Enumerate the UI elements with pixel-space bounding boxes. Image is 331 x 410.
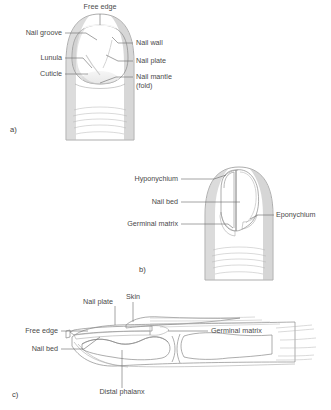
label-nail-mantle-fold: (fold)	[136, 81, 152, 90]
label-distal-phalanx: Distal phalanx	[99, 387, 145, 396]
label-skin: Skin	[126, 292, 140, 301]
label-nail-mantle: Nail mantle	[136, 72, 172, 81]
label-free-edge: Free edge	[25, 326, 58, 335]
label-cuticle: Cuticle	[40, 69, 62, 78]
label-lunula: Lunula	[40, 53, 62, 62]
label-nail-bed: Nail bed	[152, 197, 178, 206]
figure-canvas: Free edge Nail groove Lunula Cuticle Nai…	[0, 0, 331, 410]
nail-anatomy-figure: Free edge Nail groove Lunula Cuticle Nai…	[0, 0, 331, 410]
label-germinal-matrix: Germinal matrix	[211, 326, 262, 335]
label-hyponychium: Hyponychium	[134, 174, 178, 183]
panel-letter-a: a)	[10, 125, 17, 134]
panel-letter-b: b)	[139, 265, 146, 274]
panel-letter-c: c)	[12, 390, 19, 399]
label-nail-groove: Nail groove	[26, 28, 62, 37]
label-nail-bed: Nail bed	[32, 344, 58, 353]
label-free-edge: Free edge	[84, 2, 117, 11]
label-germinal-matrix: Germinal matrix	[127, 219, 178, 228]
label-nail-plate: Nail plate	[136, 56, 166, 65]
label-nail-wall: Nail wall	[136, 38, 163, 47]
label-nail-plate: Nail plate	[83, 297, 113, 306]
label-eponychium: Eponychium	[276, 210, 316, 219]
